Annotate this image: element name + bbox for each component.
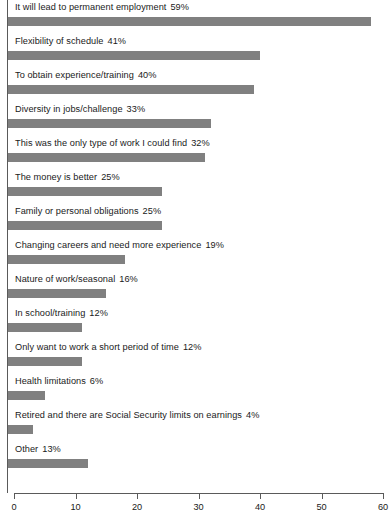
bar-value-text: 13% xyxy=(42,444,61,454)
bar-rect xyxy=(8,289,106,298)
bar-group: Retired and there are Social Security li… xyxy=(8,409,390,443)
bar-category-text: To obtain experience/training xyxy=(15,70,134,80)
bar-rect xyxy=(8,357,82,366)
bar-rect xyxy=(8,323,82,332)
bar-label: Flexibility of schedule41% xyxy=(15,35,126,48)
x-tick-label: 40 xyxy=(255,501,265,513)
bar-group: Flexibility of schedule41% xyxy=(8,35,390,69)
bar-rect xyxy=(8,255,125,264)
bar-label: Family or personal obligations25% xyxy=(15,205,161,218)
bar-label: This was the only type of work I could f… xyxy=(15,137,210,150)
bar-group: Diversity in jobs/challenge33% xyxy=(8,103,390,137)
x-tick-label: 60 xyxy=(378,501,388,513)
bar-chart: It will lead to permanent employment59%F… xyxy=(0,0,390,520)
bar-rect xyxy=(8,187,162,196)
bar-category-text: Only want to work a short period of time xyxy=(15,342,179,352)
bar-rect xyxy=(8,391,45,400)
bar-category-text: Nature of work/seasonal xyxy=(15,274,115,284)
bar-value-text: 40% xyxy=(138,70,157,80)
bar-value-text: 19% xyxy=(205,240,224,250)
bar-value-text: 4% xyxy=(246,410,259,420)
bar-group: It will lead to permanent employment59% xyxy=(8,1,390,35)
bar-rect xyxy=(8,459,88,468)
bar-value-text: 12% xyxy=(89,308,108,318)
bar-value-text: 41% xyxy=(107,36,126,46)
x-tick-label: 10 xyxy=(70,501,80,513)
plot-area: It will lead to permanent employment59%F… xyxy=(7,0,390,493)
bar-category-text: Other xyxy=(15,444,38,454)
bar-value-text: 32% xyxy=(191,138,210,148)
bar-category-text: Changing careers and need more experienc… xyxy=(15,240,201,250)
bar-rect xyxy=(8,425,33,434)
bar-group: Nature of work/seasonal16% xyxy=(8,273,390,307)
bar-label: Changing careers and need more experienc… xyxy=(15,239,224,252)
bar-rect xyxy=(8,221,162,230)
bar-label: The money is better25% xyxy=(15,171,120,184)
bar-group: Health limitations6% xyxy=(8,375,390,409)
bar-label: In school/training12% xyxy=(15,307,108,320)
bar-category-text: The money is better xyxy=(15,172,97,182)
bar-category-text: It will lead to permanent employment xyxy=(15,2,166,12)
x-tick-label: 50 xyxy=(316,501,326,513)
bar-category-text: Flexibility of schedule xyxy=(15,36,103,46)
bar-label: Nature of work/seasonal16% xyxy=(15,273,138,286)
bar-value-text: 33% xyxy=(127,104,146,114)
bar-category-text: In school/training xyxy=(15,308,85,318)
bar-group: Family or personal obligations25% xyxy=(8,205,390,239)
x-tick-mark xyxy=(76,493,77,499)
bar-label: To obtain experience/training40% xyxy=(15,69,156,82)
bar-value-text: 12% xyxy=(183,342,202,352)
bar-group: Only want to work a short period of time… xyxy=(8,341,390,375)
x-tick-mark xyxy=(383,493,384,499)
bar-group: This was the only type of work I could f… xyxy=(8,137,390,171)
x-tick-label: 30 xyxy=(193,501,203,513)
bar-group: Other13% xyxy=(8,443,390,477)
bar-value-text: 25% xyxy=(143,206,162,216)
x-tick-mark xyxy=(14,493,15,499)
bar-value-text: 59% xyxy=(170,2,189,12)
x-tick-mark xyxy=(322,493,323,499)
bar-value-text: 25% xyxy=(101,172,120,182)
bar-group: To obtain experience/training40% xyxy=(8,69,390,103)
x-tick-label: 0 xyxy=(11,501,16,513)
bar-category-text: Diversity in jobs/challenge xyxy=(15,104,123,114)
bar-rect xyxy=(8,85,254,94)
bar-label: Other13% xyxy=(15,443,61,456)
bar-rect xyxy=(8,119,211,128)
bar-group: The money is better25% xyxy=(8,171,390,205)
bar-category-text: This was the only type of work I could f… xyxy=(15,138,187,148)
x-tick-mark xyxy=(260,493,261,499)
x-tick-label: 20 xyxy=(132,501,142,513)
bar-label: Retired and there are Social Security li… xyxy=(15,409,259,422)
bar-rect xyxy=(8,17,371,26)
bar-category-text: Retired and there are Social Security li… xyxy=(15,410,242,420)
bar-category-text: Health limitations xyxy=(15,376,86,386)
bar-category-text: Family or personal obligations xyxy=(15,206,139,216)
bar-rect xyxy=(8,153,205,162)
bar-label: Health limitations6% xyxy=(15,375,103,388)
bar-rect xyxy=(8,51,260,60)
bar-group: In school/training12% xyxy=(8,307,390,341)
bar-group: Changing careers and need more experienc… xyxy=(8,239,390,273)
bar-label: Only want to work a short period of time… xyxy=(15,341,201,354)
bar-value-text: 16% xyxy=(119,274,138,284)
bar-label: It will lead to permanent employment59% xyxy=(15,1,189,14)
x-tick-mark xyxy=(199,493,200,499)
bar-label: Diversity in jobs/challenge33% xyxy=(15,103,145,116)
bar-value-text: 6% xyxy=(90,376,103,386)
x-tick-mark xyxy=(137,493,138,499)
